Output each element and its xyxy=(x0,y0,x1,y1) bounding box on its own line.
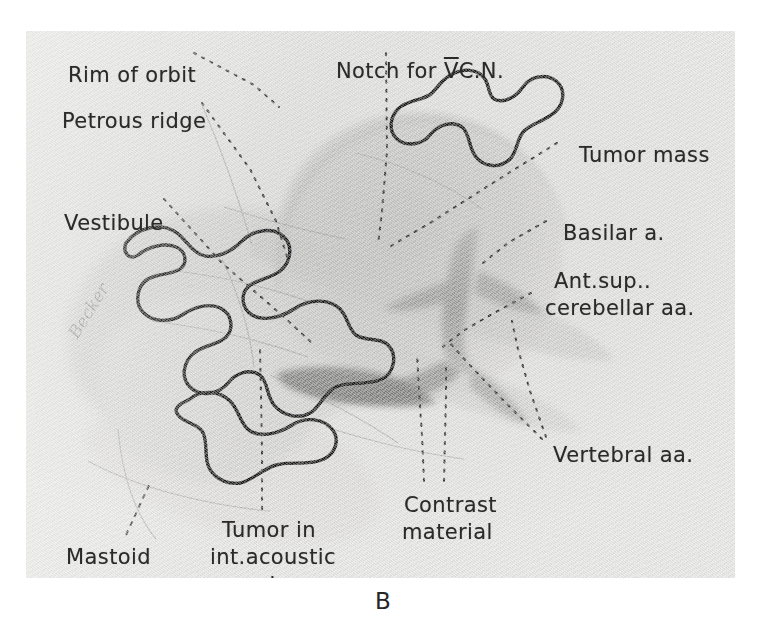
leader-vertebral-a-left xyxy=(450,343,542,439)
leader-basilar-artery xyxy=(478,221,546,267)
label-ant-sup-cerebellar-line1: Ant.sup.. xyxy=(554,269,651,294)
leader-contrast-left xyxy=(417,353,424,481)
label-contrast-material-line1: Contrast xyxy=(404,493,497,518)
label-vestibule: Vestibule xyxy=(64,211,164,236)
figure-caption-b: B xyxy=(0,588,766,614)
label-contrast-material-line2: material xyxy=(402,520,493,545)
leader-petrous-ridge xyxy=(202,103,288,260)
leader-contrast-right xyxy=(444,367,446,481)
label-petrous-ridge: Petrous ridge xyxy=(62,109,206,134)
leader-ant-sup-cerebellar xyxy=(440,293,531,349)
figure-root: Becker Rim of orbit Petrous ridge Vestib… xyxy=(0,0,766,626)
label-mastoid-process-line2: process xyxy=(62,572,146,578)
leader-tumor-mass xyxy=(386,143,557,249)
radiograph-plate: Becker Rim of orbit Petrous ridge Vestib… xyxy=(26,31,735,578)
leader-tumor-in-iam xyxy=(260,349,262,509)
label-mastoid-process-line1: Mastoid xyxy=(66,545,151,570)
label-vertebral-arteries: Vertebral aa. xyxy=(553,443,693,468)
label-tumor-in-iam-line3: meatus xyxy=(222,572,303,578)
label-basilar-artery: Basilar a. xyxy=(563,221,665,246)
leader-rim-of-orbit xyxy=(194,53,279,107)
label-rim-of-orbit: Rim of orbit xyxy=(68,63,196,88)
label-notch-prefix: Notch for xyxy=(336,59,444,83)
leader-mastoid-process xyxy=(126,483,150,535)
label-tumor-in-iam-line2: int.acoustic xyxy=(210,545,336,570)
label-tumor-in-iam-line1: Tumor in xyxy=(222,518,316,543)
leader-vestibule xyxy=(164,199,311,342)
label-tumor-mass: Tumor mass xyxy=(579,143,710,168)
label-notch-suffix: C.N. xyxy=(459,59,504,83)
label-notch-for-v-cn: Notch for VC.N. xyxy=(336,59,504,84)
roman-numeral-five: V xyxy=(444,59,459,83)
label-ant-sup-cerebellar-line2: cerebellar aa. xyxy=(545,296,695,321)
leader-vertebral-a-right xyxy=(512,321,546,437)
